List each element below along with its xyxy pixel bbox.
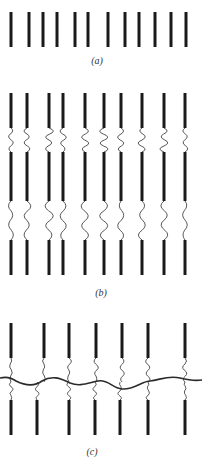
wavy-connector — [9, 128, 14, 152]
wavy-connector — [118, 201, 124, 240]
wavy-connector — [82, 128, 89, 152]
wavy-connector — [183, 201, 188, 240]
wavy-connector — [118, 128, 124, 152]
wavy-connector — [183, 128, 188, 152]
wavy-connector — [60, 128, 66, 152]
panel-a-separated-bars — [11, 12, 186, 47]
upper-connector — [68, 358, 72, 382]
wavy-connector — [160, 128, 168, 152]
wavy-connector — [45, 201, 53, 240]
panel-label-c: (c) — [86, 446, 97, 457]
wavy-connector — [46, 128, 54, 152]
wavy-connector — [138, 201, 145, 240]
fiber-diagram — [0, 0, 202, 458]
horizontal-thread — [0, 377, 202, 389]
lower-connector — [184, 382, 186, 400]
panel-label-b: (b) — [95, 287, 107, 298]
panel-label-a: (a) — [91, 55, 103, 66]
lower-connector — [67, 382, 71, 400]
wavy-connector — [9, 201, 14, 240]
upper-connector — [94, 358, 98, 382]
lower-connector — [146, 382, 149, 400]
upper-connector — [120, 358, 124, 382]
lower-connector — [118, 382, 122, 400]
lower-connector — [9, 382, 13, 400]
wavy-connector — [24, 128, 30, 152]
wavy-connector — [81, 201, 88, 240]
upper-connector — [146, 358, 150, 382]
wavy-connector — [100, 128, 108, 152]
wavy-connector — [138, 128, 145, 152]
wavy-connector — [100, 201, 108, 240]
upper-connector — [43, 358, 46, 382]
wavy-connector — [161, 201, 168, 240]
lower-connector — [93, 382, 97, 400]
wavy-connector — [60, 201, 66, 240]
wavy-connector — [24, 201, 31, 240]
panel-b-linked-strands — [9, 93, 188, 275]
panel-c-bridged-strands — [0, 323, 202, 435]
